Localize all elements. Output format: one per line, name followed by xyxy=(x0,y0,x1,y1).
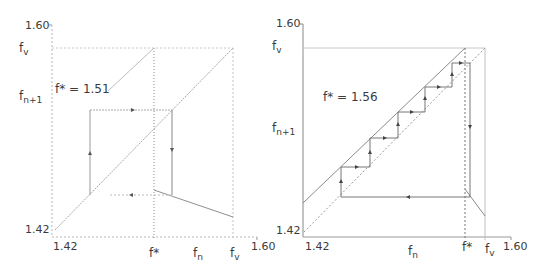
left-panel xyxy=(49,25,257,240)
left-y-bottom-tick: 1.42 xyxy=(25,224,50,235)
right-x-left-tick: 1.42 xyxy=(305,241,330,252)
left-x-fv-label: fv xyxy=(230,247,240,262)
right-y-fv-label: fv xyxy=(272,40,282,55)
right-y-top-tick: 1.60 xyxy=(276,18,301,29)
right-diagonal xyxy=(304,48,485,232)
right-map-upper-branch xyxy=(303,48,465,203)
left-y-axis-label: fn+1 xyxy=(19,90,42,105)
right-x-right-tick: 1.60 xyxy=(503,241,528,252)
left-map-upper-branch xyxy=(108,48,154,91)
right-y-bottom-tick: 1.42 xyxy=(276,225,301,236)
left-y-fv-label: fv xyxy=(19,42,29,57)
right-panel xyxy=(300,24,511,240)
left-x-fstar-label: f* xyxy=(149,247,159,259)
left-map-lower-branch xyxy=(154,190,233,217)
right-map-lower-branch xyxy=(465,189,485,216)
left-diagonal xyxy=(55,48,233,230)
left-x-right-tick: 1.60 xyxy=(251,241,276,252)
right-y-axis-label: fn+1 xyxy=(272,122,295,137)
left-x-axis-label: fn xyxy=(193,247,203,262)
left-x-left-tick: 1.42 xyxy=(53,241,78,252)
right-x-fv-label: fv xyxy=(485,243,495,258)
left-y-top-tick: 1.60 xyxy=(25,20,50,31)
right-fstar-annotation: f* = 1.56 xyxy=(323,91,378,103)
right-x-fstar-label: f* xyxy=(462,241,472,253)
right-x-axis-label: fn xyxy=(408,245,418,260)
left-fstar-annotation: f* = 1.51 xyxy=(55,83,110,95)
